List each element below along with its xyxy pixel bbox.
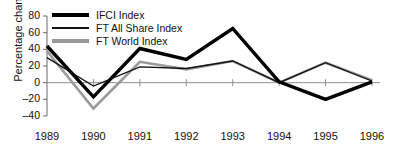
- x-tick-label: 1989: [25, 130, 69, 142]
- legend-swatch-ft-all-share-line-icon: [52, 27, 89, 28]
- chart-legend: IFCI Index FT All Share Index FT World I…: [52, 9, 182, 48]
- legend-swatch-ifci-line-icon: [52, 13, 89, 17]
- x-tick-label: 1995: [304, 130, 348, 142]
- legend-label-ft-all-share: FT All Share Index: [96, 23, 182, 34]
- x-tick-label: 1992: [164, 130, 208, 142]
- legend-item-ifci: IFCI Index: [52, 9, 182, 21]
- legend-item-ft-all-share: FT All Share Index: [52, 22, 182, 34]
- x-tick-label: 1996: [350, 130, 393, 142]
- series-line-ft-all-share-index: [47, 58, 372, 86]
- legend-swatch-ft-world-line-icon: [52, 39, 89, 42]
- x-tick-label: 1993: [211, 130, 255, 142]
- x-tick-label: 1990: [71, 130, 115, 142]
- x-tick-label: 1991: [118, 130, 162, 142]
- x-tick-label: 1994: [257, 130, 301, 142]
- legend-label-ifci: IFCI Index: [96, 10, 144, 21]
- legend-label-ft-world: FT World Index: [96, 36, 167, 47]
- legend-item-ft-world: FT World Index: [52, 35, 182, 47]
- chart-container: Percentage change 806040200–20–40 IFCI I…: [0, 0, 393, 156]
